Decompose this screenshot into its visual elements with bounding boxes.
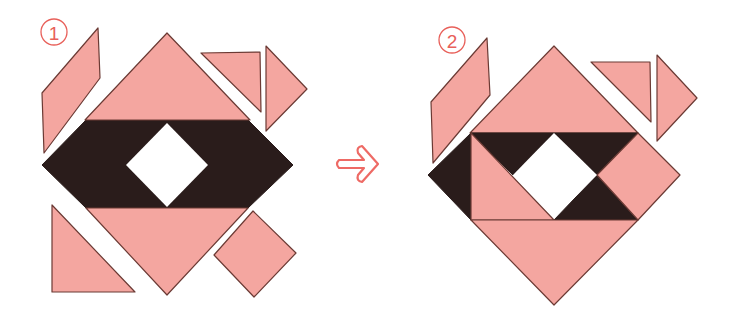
arrow-right-icon (337, 146, 378, 182)
panel-1-label-text: 1 (49, 23, 60, 44)
panel-2-label: 2 (439, 27, 465, 53)
panel-2: 2 (428, 27, 697, 305)
tangram-diagram: 1 2 (0, 0, 739, 324)
panel-1-label: 1 (41, 19, 67, 45)
piece-large-triangle-bottom (471, 220, 638, 305)
piece-small-triangle-b (657, 55, 697, 141)
panel-2-label-text: 2 (447, 31, 458, 52)
panel-1: 1 (41, 19, 307, 297)
piece-large-triangle-top (470, 46, 638, 133)
piece-small-triangle-b (266, 46, 307, 131)
